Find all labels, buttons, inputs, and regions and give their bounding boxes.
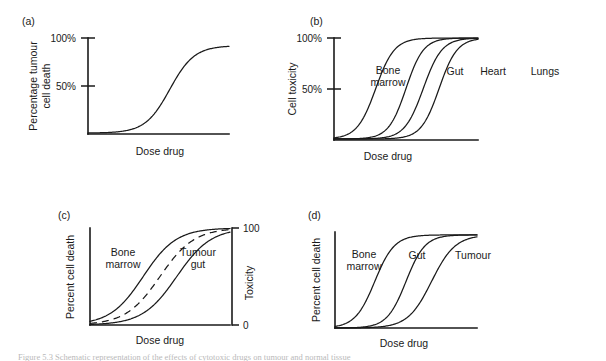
panel-a-y-axis-label-line1: Percentage tumour [27, 41, 39, 131]
panel-b-label-marrow: marrow [370, 76, 405, 88]
panel-c-x-axis-label: Dose drug [136, 334, 185, 346]
panel-a: (a) 100% 50% Percentage tumour cell deat… [22, 15, 229, 157]
panel-b-y-axis-label: Cell toxicity [286, 62, 298, 116]
panel-c-y2-axis-label: Toxicity [243, 265, 255, 300]
panel-c-curve-dashed-intermediate [90, 230, 230, 324]
panel-d-x-axis-label: Dose drug [380, 337, 429, 349]
panel-a-tick-label-50: 50% [56, 81, 76, 92]
panel-c-tick-label-0: 0 [243, 320, 249, 331]
panel-b-x-axis-label: Dose drug [364, 150, 413, 162]
panel-b-tick-label-50: 50% [302, 84, 322, 95]
panel-b-curve-gut [334, 38, 478, 139]
panel-a-x-axis-label: Dose drug [136, 145, 185, 157]
panel-c: (c) 100 0 Percent cell death Toxicity Do… [58, 209, 260, 346]
panel-b-label-heart: Heart [480, 65, 506, 77]
panel-d: (d) Percent cell death Dose drug Bone ma… [308, 209, 491, 349]
figure-canvas: (a) 100% 50% Percentage tumour cell deat… [0, 0, 606, 361]
panel-b-tick-label-100: 100% [296, 33, 322, 44]
panel-b-label-lungs: Lungs [531, 65, 560, 77]
panel-b-label-bone: Bone [376, 64, 401, 76]
panel-b: (b) 100% 50% Cell toxicity Dose drug Bon… [286, 15, 559, 162]
figure-caption: Figure 5.3 Schematic representation of t… [18, 352, 588, 361]
panel-b-label-gut: Gut [447, 65, 464, 77]
panel-d-label-bone: Bone [352, 248, 377, 260]
panel-c-curve-bone-marrow [90, 229, 230, 322]
panel-c-tick-label-100: 100 [243, 223, 260, 234]
panel-a-tick-label-100: 100% [50, 33, 76, 44]
panel-a-letter: (a) [22, 15, 35, 27]
panel-a-curve-tumour [88, 46, 229, 133]
panel-d-label-gut: Gut [409, 249, 426, 261]
panel-d-letter: (d) [308, 209, 321, 221]
panel-c-y-axis-label: Percent cell death [64, 235, 76, 319]
figure-root: (a) 100% 50% Percentage tumour cell deat… [0, 0, 606, 361]
panel-c-label-tumour: Tumour [180, 246, 216, 258]
panel-d-y-axis-label: Percent cell death [310, 238, 322, 322]
panel-b-letter: (b) [310, 15, 323, 27]
panel-c-label-bone: Bone [111, 246, 136, 258]
panel-c-label-marrow: marrow [105, 258, 140, 270]
panel-a-y-axis-label-line2: cell death [40, 63, 52, 108]
panel-d-label-tumour: Tumour [455, 249, 491, 261]
panel-c-letter: (c) [58, 209, 70, 221]
panel-d-label-marrow: marrow [346, 260, 381, 272]
panel-c-label-tumour-gut: gut [191, 258, 206, 270]
